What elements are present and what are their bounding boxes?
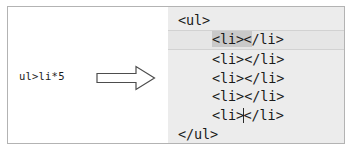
code-token-tag: <ul>	[178, 12, 210, 28]
code-editor-panel[interactable]: <ul><li></li><li></li><li></li><li></li>…	[168, 7, 344, 143]
code-token-open-tag: <li>	[212, 31, 244, 47]
code-token-open-tag: <li>	[212, 70, 244, 86]
code-line[interactable]: <li></li>	[168, 69, 344, 88]
code-token-open-tag: <li>	[212, 107, 244, 123]
code-token-close-tag: /li>	[252, 31, 284, 47]
code-line[interactable]: <li></li>	[168, 87, 344, 106]
code-token-close-tag: </li>	[244, 51, 284, 67]
code-token-close-tag: </li>	[244, 107, 284, 123]
abbreviation-text: ul>li*5	[19, 70, 65, 82]
code-token-tag: </ul>	[178, 126, 218, 142]
code-token-close-tag: </li>	[244, 88, 284, 104]
code-line[interactable]: </ul>	[168, 125, 344, 143]
code-line[interactable]: <li></li>	[168, 106, 344, 125]
code-line[interactable]: <li></li>	[168, 50, 344, 69]
code-line[interactable]: <li></li>	[168, 30, 344, 51]
code-token-close-tag: </li>	[244, 70, 284, 86]
abbreviation-expansion-figure: ul>li*5 <ul><li></li><li></li><li></li><…	[7, 6, 345, 144]
right-block-arrow-icon	[96, 65, 156, 91]
code-token-open-tag: <li>	[212, 51, 244, 67]
code-line-list: <ul><li></li><li></li><li></li><li></li>…	[168, 11, 344, 143]
abbreviation-panel: ul>li*5	[8, 7, 168, 143]
code-token-open-tag: <li>	[212, 88, 244, 104]
code-token-close-tag-head: <	[244, 31, 252, 47]
code-line[interactable]: <ul>	[168, 11, 344, 30]
